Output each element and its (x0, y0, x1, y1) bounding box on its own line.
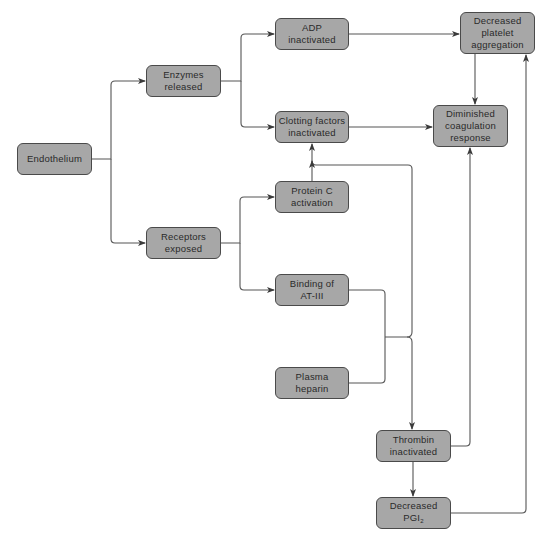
node-label: Binding of (290, 278, 334, 290)
node-label: response (450, 132, 491, 144)
node-label: activation (291, 197, 333, 209)
edge-receptors-binding (240, 243, 274, 290)
node-label: released (164, 81, 202, 93)
subscript: 2 (420, 518, 424, 524)
node-label: Endothelium (27, 153, 82, 165)
edge-thrombin-coagulation (451, 148, 470, 446)
node-label: inactivated (390, 446, 438, 458)
node-label: exposed (165, 243, 202, 255)
node-label: inactivated (288, 127, 336, 139)
edge-junction-thrombin (407, 337, 412, 429)
edge-enzymes-adp (221, 34, 274, 81)
node-label: Decreased (474, 15, 522, 27)
node-label: Thrombin (393, 434, 435, 446)
node-thrombin-inactivated: Thrombin inactivated (376, 430, 451, 462)
edge-receptors-proteinc (221, 197, 274, 243)
node-label: Protein C (291, 185, 332, 197)
node-label: ADP (302, 22, 322, 34)
node-label: Plasma (296, 371, 329, 383)
node-label: Receptors (161, 231, 206, 243)
node-decreased-pgi2: Decreased PGI2 (376, 497, 451, 529)
node-label: PGI2 (403, 512, 424, 527)
node-endothelium: Endothelium (17, 143, 92, 175)
node-diminished-coagulation-response: Diminished coagulation response (433, 105, 508, 147)
node-adp-inactivated: ADP inactivated (275, 18, 349, 50)
edge-binding-bracket (349, 290, 385, 383)
pgi-text: PGI (403, 512, 420, 523)
connectors (0, 0, 546, 540)
node-plasma-heparin: Plasma heparin (275, 367, 349, 399)
edge-endothelium-enzymes (92, 81, 145, 159)
node-label: Enzymes (163, 69, 203, 81)
node-binding-at-iii: Binding of AT-III (275, 274, 349, 306)
node-label: coagulation (445, 120, 496, 132)
edge-enzymes-clotting (241, 81, 274, 127)
node-label: Clotting factors (279, 115, 346, 127)
node-enzymes-released: Enzymes released (146, 65, 221, 97)
node-label: AT-III (300, 290, 323, 302)
node-label: heparin (295, 383, 328, 395)
flowchart: Endothelium Enzymes released Receptors e… (0, 0, 546, 540)
node-protein-c-activation: Protein C activation (275, 181, 349, 213)
node-label: inactivated (288, 34, 336, 46)
node-label: aggregation (471, 39, 523, 51)
node-label: Diminished (446, 108, 495, 120)
edge-endothelium-receptors (111, 159, 145, 243)
node-receptors-exposed: Receptors exposed (146, 227, 221, 259)
node-label: platelet (481, 27, 513, 39)
node-decreased-platelet-aggregation: Decreased platelet aggregation (460, 12, 535, 54)
node-clotting-factors-inactivated: Clotting factors inactivated (275, 111, 349, 143)
node-label: Decreased (390, 500, 438, 512)
